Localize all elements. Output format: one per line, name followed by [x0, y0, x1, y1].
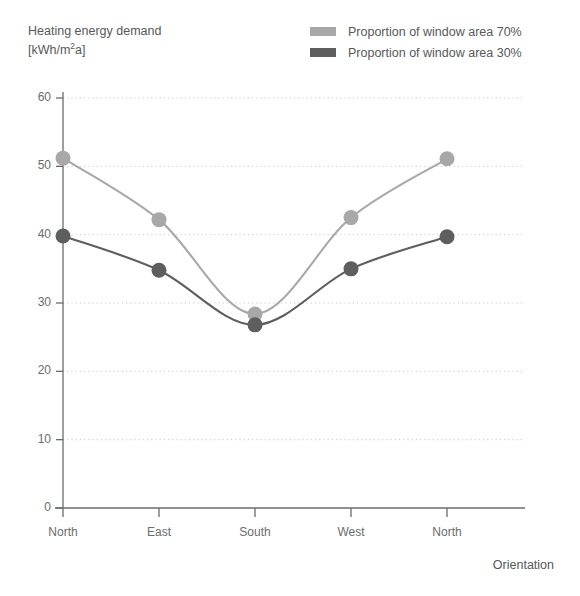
data-point-2-2	[248, 317, 263, 332]
y-axis-unit-suffix: a]	[75, 43, 85, 57]
y-tick-label-60: 60	[23, 90, 51, 104]
data-point-2-4	[440, 229, 455, 244]
y-axis-title-line1: Heating energy demand	[28, 24, 161, 38]
data-point-1-3	[344, 210, 359, 225]
x-tick-label-4: North	[407, 525, 487, 539]
legend-swatch-series-30	[310, 48, 336, 57]
data-point-2-0	[56, 229, 71, 244]
y-tick-label-40: 40	[23, 227, 51, 241]
x-tick-label-0: North	[23, 525, 103, 539]
legend-label-series-70: Proportion of window area 70%	[348, 25, 522, 39]
data-point-1-1	[152, 212, 167, 227]
data-point-1-4	[440, 151, 455, 166]
series-line-1	[63, 158, 447, 314]
y-axis-unit-prefix: [kWh/m	[28, 43, 70, 57]
y-tick-label-10: 10	[23, 432, 51, 446]
legend-item-series-30: Proportion of window area 30%	[310, 43, 570, 62]
legend-label-series-30: Proportion of window area 30%	[348, 46, 522, 60]
chart-container: Heating energy demand [kWh/m2a] Proporti…	[0, 0, 580, 596]
x-axis-title: Orientation	[493, 556, 554, 575]
x-tick-label-2: South	[215, 525, 295, 539]
legend-item-series-70: Proportion of window area 70%	[310, 22, 570, 41]
y-axis-title-line2: [kWh/m2a]	[28, 41, 161, 60]
legend: Proportion of window area 70% Proportion…	[310, 22, 570, 64]
data-point-2-3	[344, 261, 359, 276]
y-tick-label-20: 20	[23, 363, 51, 377]
plot-svg	[63, 98, 525, 508]
x-tick-label-3: West	[311, 525, 391, 539]
y-axis-title: Heating energy demand [kWh/m2a]	[28, 22, 161, 60]
y-tick-label-0: 0	[23, 500, 51, 514]
legend-swatch-series-70	[310, 27, 336, 36]
plot-area: 0102030405060NorthEastSouthWestNorth	[63, 98, 525, 508]
data-point-1-0	[56, 151, 71, 166]
y-tick-label-50: 50	[23, 158, 51, 172]
x-tick-label-1: East	[119, 525, 199, 539]
series-1	[56, 151, 455, 322]
y-tick-label-30: 30	[23, 295, 51, 309]
data-point-2-1	[152, 263, 167, 278]
